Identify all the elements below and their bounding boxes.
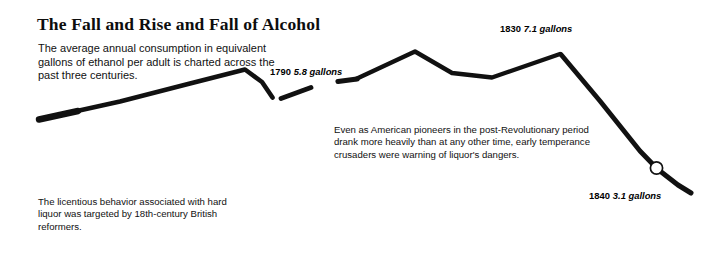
datapoint-value-1830: 7.1 gallons <box>524 23 572 34</box>
datapoint-year-1830: 1830 <box>500 23 521 34</box>
datapoint-label-1830: 18307.1 gallons <box>500 23 572 34</box>
chart-line-segment-tail <box>660 171 691 193</box>
datapoint-year-1790: 1790 <box>270 66 291 77</box>
datapoint-value-1790: 5.8 gallons <box>294 66 342 77</box>
datapoint-label-1840: 18403.1 gallons <box>589 190 661 201</box>
page-title: The Fall and Rise and Fall of Alcohol <box>37 14 320 35</box>
chart-line-segment-1790-stub <box>281 88 311 99</box>
page-subtitle: The average annual consumption in equiva… <box>38 42 290 83</box>
infographic-page: The Fall and Rise and Fall of Alcohol Th… <box>0 0 713 256</box>
annotation-licentious: The licentious behavior associated with … <box>38 196 248 233</box>
annotation-pioneers: Even as American pioneers in the post-Re… <box>334 124 592 161</box>
chart-line-start-taper <box>39 111 78 120</box>
datapoint-marker-1840 <box>650 162 662 174</box>
datapoint-label-1790: 17905.8 gallons <box>270 66 342 77</box>
datapoint-year-1840: 1840 <box>589 190 610 201</box>
datapoint-value-1840: 3.1 gallons <box>613 190 661 201</box>
chart-line-segment-label-bridge <box>338 79 357 82</box>
chart-line-segment-1790-to-1830 <box>356 52 560 80</box>
